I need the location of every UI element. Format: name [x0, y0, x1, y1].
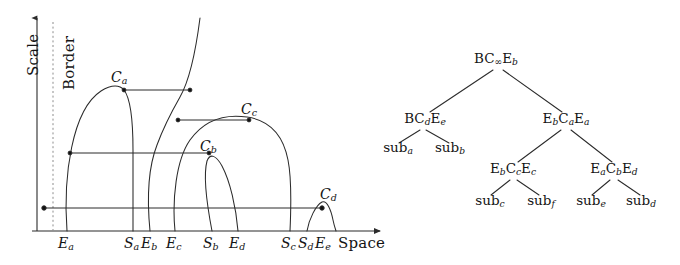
x-tick-Ea: Ea: [58, 236, 74, 250]
dot-cc-right: [247, 118, 251, 122]
x-tick-Ec: Ec: [166, 236, 182, 250]
tree-node-n-left: BCdEe: [404, 112, 446, 126]
tree-leaf-sub-f: subf: [527, 194, 555, 208]
x-tick-Sd: Sd: [298, 236, 314, 250]
x-tick-Ee: Ee: [315, 236, 331, 250]
figure-container: Scale Border Space EaSaEbEcSbEdScSdEe Ca…: [0, 0, 680, 265]
x-tick-Ed: Ed: [229, 236, 245, 250]
scale-space-curves: [66, 18, 336, 231]
tree-leaf-sub-b: subb: [435, 141, 465, 155]
tree-leaf-sub-e: sube: [576, 194, 606, 208]
tree-node-n-right: EbCaEa: [543, 112, 590, 126]
dot-ca-left: [122, 88, 126, 92]
arc-c: [174, 116, 291, 231]
edge-right-l2right: [571, 130, 612, 162]
critical-point-Cb: Cb: [200, 139, 217, 153]
dot-cd-left: [42, 206, 46, 210]
critical-point-links: [42, 88, 324, 210]
dot-cc-left: [176, 118, 180, 122]
x-axis-label: Space: [338, 236, 385, 251]
x-tick-Sa: Sa: [124, 236, 139, 250]
tree-node-n-right-left: EbCcEc: [490, 162, 536, 176]
figure-drawing: [0, 0, 680, 265]
x-tick-Sc: Sc: [281, 236, 296, 250]
tree-leaf-sub-a: suba: [383, 141, 413, 155]
tree-node-n-right-right: EaCbEd: [590, 162, 637, 176]
arc-d: [205, 156, 238, 231]
critical-point-Ca: Ca: [111, 70, 127, 84]
tree-node-root: BC∞Eb: [474, 52, 518, 66]
dot-cb-left: [68, 151, 72, 155]
dot-ca-right: [188, 88, 192, 92]
y-axis-label: Scale: [26, 34, 41, 76]
edge-root-left: [430, 70, 493, 112]
arc-a: [66, 86, 133, 231]
x-tick-Sb: Sb: [203, 236, 219, 250]
critical-point-Cc: Cc: [241, 102, 257, 116]
tree-leaf-sub-c: subc: [475, 194, 504, 208]
dot-cd-right: [320, 206, 324, 210]
edge-right-l2left: [518, 130, 561, 162]
edge-root-right: [503, 70, 562, 112]
critical-point-Cd: Cd: [320, 187, 337, 201]
tree-leaf-sub-d: subd: [626, 194, 656, 208]
border-label: Border: [62, 36, 77, 90]
x-tick-Eb: Eb: [141, 236, 157, 250]
